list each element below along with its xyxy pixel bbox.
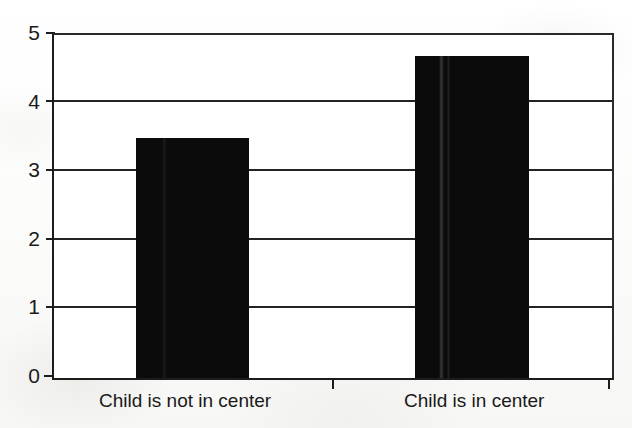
x-axis-end-tick [608, 378, 610, 389]
x-axis-label-child-is-in-center: Child is in center [404, 390, 544, 412]
x-axis-category-separator-tick [332, 378, 334, 389]
y-axis-label-3: 3 [14, 159, 40, 180]
y-axis-label-4: 4 [14, 91, 40, 112]
bar-streak-secondary [447, 56, 450, 378]
y-axis-label-2: 2 [14, 228, 40, 249]
y-axis-label-1: 1 [14, 296, 40, 317]
y-axis-label-5: 5 [14, 22, 40, 43]
chart-figure: 5 4 3 2 1 0 Child is not in center Child… [0, 0, 632, 428]
bar-child-is-in-center [415, 56, 529, 378]
bar-child-is-not-in-center [136, 138, 249, 378]
plot-area [52, 33, 614, 380]
y-axis-label-0: 0 [14, 365, 40, 386]
bar-streak [439, 56, 444, 378]
x-axis-label-child-is-not-in-center: Child is not in center [99, 390, 271, 412]
bar-streak [162, 138, 167, 378]
